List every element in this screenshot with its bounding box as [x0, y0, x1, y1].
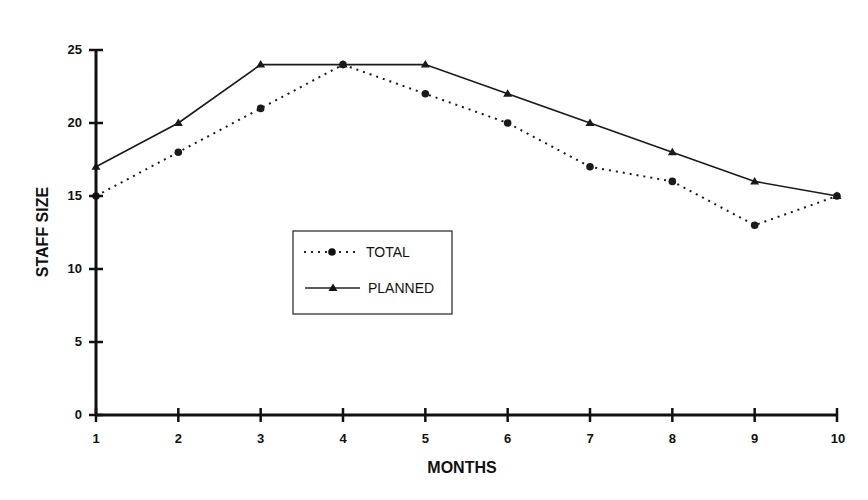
y-tick-label: 5 — [75, 334, 82, 349]
x-tick-label: 4 — [339, 431, 347, 446]
axes: 0510152025 12345678910 — [68, 42, 846, 446]
y-tick-label: 25 — [68, 42, 82, 57]
y-tick-label: 15 — [68, 188, 82, 203]
circle-marker-icon — [504, 119, 512, 127]
legend: TOTAL PLANNED — [293, 231, 452, 314]
series-layer — [92, 60, 842, 229]
y-tick-label: 20 — [68, 115, 82, 130]
circle-marker-icon — [751, 221, 759, 229]
circle-marker-icon — [586, 163, 594, 171]
x-tick-label: 7 — [586, 431, 593, 446]
x-tick-label: 2 — [175, 431, 182, 446]
circle-marker-icon — [175, 148, 183, 156]
x-axis-title: MONTHS — [427, 459, 497, 476]
x-tick-label: 3 — [257, 431, 264, 446]
x-tick-label: 5 — [422, 431, 429, 446]
y-tick-label: 0 — [75, 407, 82, 422]
x-tick-label: 9 — [751, 431, 758, 446]
y-tick-label: 10 — [68, 261, 82, 276]
circle-marker-icon — [257, 105, 265, 113]
legend-label-planned: PLANNED — [368, 280, 434, 296]
circle-marker-icon — [328, 248, 336, 256]
x-tick-label: 6 — [504, 431, 511, 446]
series-planned — [92, 60, 842, 199]
series-line — [96, 65, 837, 196]
circle-marker-icon — [669, 178, 677, 186]
triangle-marker-icon — [174, 119, 183, 127]
x-tick-label: 10 — [831, 431, 845, 446]
x-tick-label: 8 — [669, 431, 676, 446]
y-ticks: 0510152025 — [68, 42, 103, 422]
series-total — [92, 61, 841, 229]
staff-size-line-chart: 0510152025 12345678910 MONTHS STAFF SIZE… — [0, 0, 868, 500]
circle-marker-icon — [422, 90, 430, 98]
y-axis-title: STAFF SIZE — [34, 186, 51, 277]
series-line — [96, 65, 837, 226]
legend-label-total: TOTAL — [366, 244, 410, 260]
x-tick-label: 1 — [92, 431, 99, 446]
